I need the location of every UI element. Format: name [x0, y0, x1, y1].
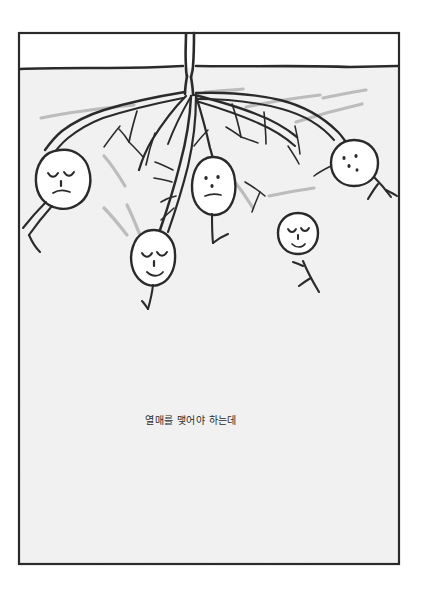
tuber-topright-eye-right: [354, 154, 357, 158]
tuber-center-eye-right: [216, 175, 219, 179]
tuber-topright-nose: [347, 164, 350, 168]
tuber-center-eye-left: [204, 176, 207, 180]
comic-illustration: 열매를 맺어야 하는데: [0, 0, 427, 597]
sky-region: [19, 33, 399, 68]
comic-panel: 열매를 맺어야 하는데: [0, 0, 427, 597]
tuber-topright-mouth: [356, 168, 359, 172]
tuber-center-nose: [210, 184, 213, 188]
caption-korean: 열매를 맺어야 하는데: [145, 414, 237, 426]
tuber-topright-eye-left: [342, 156, 345, 160]
